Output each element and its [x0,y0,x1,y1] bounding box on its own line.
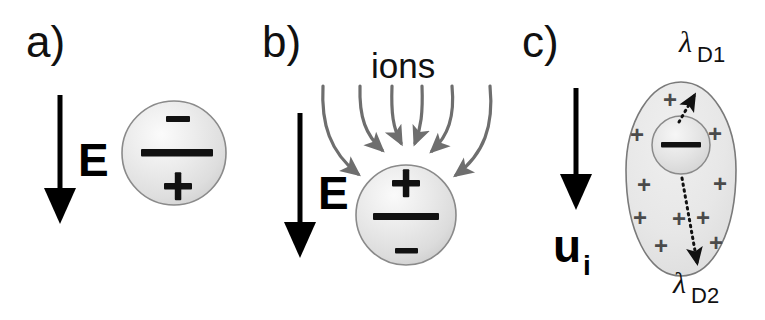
panel-a-field-arrow [44,95,76,224]
cloud-charge: + [633,204,647,231]
panel-a: a) E [26,17,226,224]
panel-b: b) ions E [262,17,491,265]
field-arrow-head [44,188,76,224]
cloud-charge: + [672,205,686,232]
core-charge-minus [661,142,701,148]
ion-arrow-group [323,86,491,175]
particle-dipole-bar [373,213,439,220]
panel-a-label: a) [26,17,65,66]
cloud-charge: + [637,171,651,198]
figure-canvas: a) E b) ions [0,0,765,320]
cloud-charge: + [696,204,710,231]
cloud-charge: + [709,229,723,256]
ion-arrow-2 [360,86,382,150]
particle-dipole-bar [141,149,213,157]
panel-b-field-label: E [318,167,349,219]
panel-a-field-label: E [78,134,109,186]
ions-label: ions [371,46,435,85]
field-arrow-head [284,222,316,258]
panel-c-velocity-subscript: i [583,250,591,281]
cloud-charge: + [630,121,644,148]
velocity-arrow-head [560,174,592,210]
cloud-charge: + [713,170,727,197]
lambda-d1-symbol: λ [678,25,692,58]
ion-arrow-3 [392,86,401,143]
ion-arrow-6 [456,86,491,175]
diagram-svg: a) E b) ions [0,0,765,320]
lambda-d2-symbol: λ [672,266,686,299]
ion-arrow-5 [432,86,453,151]
lambda-d1-subscript: D1 [697,42,725,67]
particle-bottom-charge-minus [395,248,418,254]
panel-b-label: b) [262,17,301,66]
cloud-charge: + [654,232,668,259]
panel-c-label: c) [522,17,559,66]
particle-top-charge-minus [166,116,190,122]
panel-c-velocity-label: u [553,220,581,272]
panel-c: c) u i + + + + + + + + [522,17,736,308]
panel-b-field-arrow [284,113,316,258]
panel-a-particle [122,101,226,205]
cloud-charge: + [663,86,677,113]
panel-b-particle [356,165,456,265]
ion-arrow-4 [415,86,422,143]
lambda-d2-subscript: D2 [691,283,719,308]
ion-arrow-1 [323,86,358,174]
core-particle [652,116,710,174]
debye-label-d1: λ D1 [678,25,725,67]
panel-c-velocity-arrow [560,88,592,210]
